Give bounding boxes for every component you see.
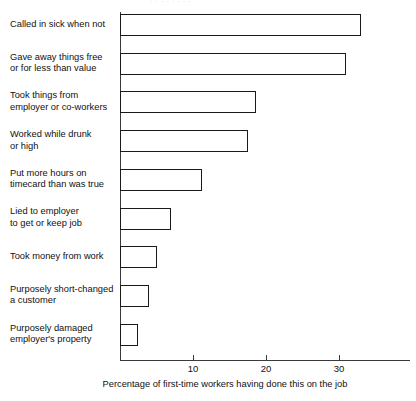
category-label-line: to get or keep job	[10, 218, 118, 230]
bar	[120, 91, 256, 113]
category-label-line: a customer	[10, 295, 118, 307]
category-label: Put more hours ontimecard than was true	[10, 168, 118, 191]
bar	[120, 324, 138, 346]
bar	[120, 246, 157, 268]
plot-area: 102030 Called in sick when notGave away …	[0, 0, 416, 401]
axis-tick-30	[339, 355, 340, 361]
category-label-line: Worked while drunk	[10, 129, 118, 141]
category-label-line: timecard than was true	[10, 179, 118, 191]
category-label-line: or for less than value	[10, 63, 118, 75]
category-label: Worked while drunkor high	[10, 129, 118, 152]
category-label-line: Took money from work	[10, 251, 118, 263]
axis-tick-10	[193, 355, 194, 361]
category-label: Gave away things freeor for less than va…	[10, 52, 118, 75]
axis-tick-label-10: 10	[188, 363, 199, 374]
bar	[120, 14, 361, 36]
category-label-line: or high	[10, 141, 118, 153]
category-label-line: Called in sick when not	[10, 19, 118, 31]
value-axis-line	[120, 360, 410, 361]
bar	[120, 285, 149, 307]
category-label: Lied to employerto get or keep job	[10, 206, 118, 229]
category-label-line: Took things from	[10, 90, 118, 102]
axis-tick-20	[266, 355, 267, 361]
bar	[120, 53, 346, 75]
category-label: Took money from work	[10, 251, 118, 263]
category-label-line: Put more hours on	[10, 168, 118, 180]
bar-chart: · · · · · · · · 102030 Called in sick wh…	[0, 0, 416, 401]
bar	[120, 169, 202, 191]
category-label-line: employer's property	[10, 334, 118, 346]
bar	[120, 130, 248, 152]
x-axis-title-text: Percentage of first-time workers having …	[69, 379, 348, 389]
category-label: Purposely short-changeda customer	[10, 284, 118, 307]
category-label-line: employer or co-workers	[10, 102, 118, 114]
axis-tick-label-30: 30	[334, 363, 345, 374]
category-label-line: Purposely short-changed	[10, 284, 118, 296]
category-label: Took things fromemployer or co-workers	[10, 90, 118, 113]
category-label-line: Purposely damaged	[10, 323, 118, 335]
axis-tick-label-20: 20	[261, 363, 272, 374]
category-label-line: Gave away things free	[10, 52, 118, 64]
category-label: Called in sick when not	[10, 19, 118, 31]
category-label-line: Lied to employer	[10, 206, 118, 218]
bar	[120, 208, 171, 230]
category-label: Purposely damagedemployer's property	[10, 323, 118, 346]
x-axis-title: Percentage of first-time workers having …	[0, 379, 416, 389]
